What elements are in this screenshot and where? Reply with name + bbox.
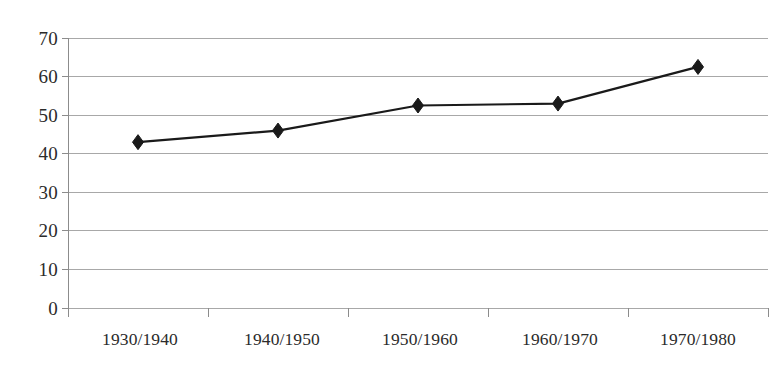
chart-figure: 70 60 50 40 30 20 10 0 1930/1940 1940/19… [0,0,778,374]
data-point-marker [693,59,704,74]
data-point-marker [553,96,564,111]
plot-area [0,0,778,374]
page-edge-artifact [300,360,600,372]
data-point-marker [273,123,284,138]
data-point-marker [413,98,424,113]
data-point-marker [133,135,144,150]
gridlines-group [68,38,768,308]
axis-lines-group [62,38,768,317]
